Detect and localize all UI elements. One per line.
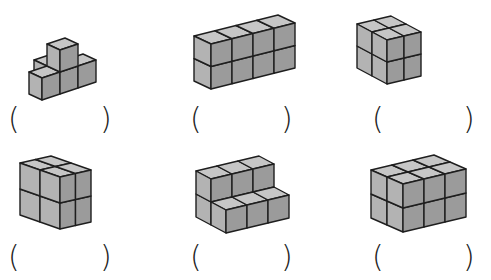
answer-open-paren: ( (372, 242, 384, 272)
answer-close-paren: ) (463, 242, 475, 272)
answer-blank-6[interactable] (386, 242, 463, 272)
unit-cube (387, 172, 424, 208)
cube-stack-drawing (0, 0, 491, 280)
